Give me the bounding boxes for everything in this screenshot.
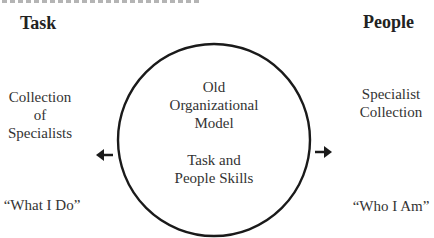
- left-description-line: Specialists: [0, 124, 80, 142]
- circle-title-line: Old: [144, 78, 284, 96]
- circle-subtitle: Task and People Skills: [144, 151, 284, 187]
- left-description-line: Collection: [0, 88, 80, 106]
- circle-title-line: Organizational: [144, 96, 284, 114]
- circle-title-line: Model: [144, 114, 284, 132]
- left-description-line: of: [0, 106, 80, 124]
- right-description-line: Collection: [350, 103, 432, 121]
- arrow-right-icon: [315, 146, 332, 158]
- right-description: Specialist Collection: [350, 85, 432, 121]
- circle-subtitle-line: People Skills: [144, 169, 284, 187]
- model-circle: [118, 44, 310, 236]
- left-quote: “What I Do”: [0, 196, 84, 214]
- right-quote: “Who I Am”: [346, 197, 434, 215]
- left-description: Collection of Specialists: [0, 88, 80, 142]
- right-description-line: Specialist: [350, 85, 432, 103]
- circle-subtitle-line: Task and: [144, 151, 284, 169]
- arrow-left-icon: [96, 149, 113, 161]
- circle-title: Old Organizational Model: [144, 78, 284, 132]
